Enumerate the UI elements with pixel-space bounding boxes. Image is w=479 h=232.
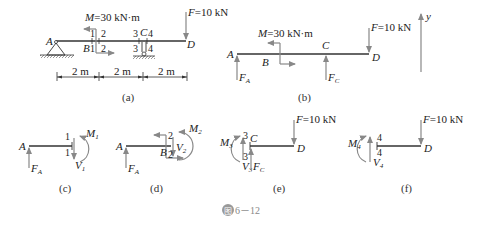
section-2-top: 2 bbox=[101, 28, 106, 39]
panel-a-caption: (a) bbox=[122, 91, 135, 104]
point-d-label: D bbox=[186, 38, 195, 50]
m4-label: M4 bbox=[347, 137, 361, 151]
panel-e: F=10 kN C D 3 3 M3 V3 FC (e) bbox=[219, 113, 336, 195]
figure-6-12: M=30 kN·m F=10 kN A B C D 1 1 2 2 3 3 4 … bbox=[0, 0, 479, 232]
point-d-label: D bbox=[423, 142, 432, 154]
section-4-bottom: 4 bbox=[148, 43, 153, 54]
point-a-label: A bbox=[226, 48, 234, 60]
force-label: F=10 kN bbox=[295, 113, 336, 125]
figure-prefix: 图 bbox=[224, 207, 232, 216]
fa-label: FA bbox=[127, 162, 140, 176]
point-b-label: B bbox=[83, 42, 90, 54]
point-a-label: A bbox=[18, 140, 26, 152]
force-label: F=10 kN bbox=[370, 21, 411, 33]
panel-f-caption: (f) bbox=[401, 182, 412, 195]
fc-label: FC bbox=[252, 160, 265, 174]
panel-a: M=30 kN·m F=10 kN A B C D 1 1 2 2 3 3 4 … bbox=[40, 6, 228, 104]
force-label: F=10 kN bbox=[187, 6, 228, 18]
dimension-label: 2 m bbox=[72, 65, 89, 77]
figure-number: 6－12 bbox=[235, 205, 260, 216]
point-c-label: C bbox=[322, 39, 330, 51]
dimension-label: 2 m bbox=[158, 65, 175, 77]
point-c-label: C bbox=[140, 26, 148, 38]
point-c-label: C bbox=[250, 132, 258, 144]
fa-label: FA bbox=[30, 162, 43, 176]
point-b-label: B bbox=[262, 56, 269, 68]
panel-b: y M=30 kN·m F=10 kN A B C D FA FC (b) bbox=[226, 10, 431, 104]
point-a-label: A bbox=[115, 140, 123, 152]
m3-label: M3 bbox=[219, 136, 233, 150]
section-2-bottom: 2 bbox=[101, 43, 106, 54]
panel-d-caption: (d) bbox=[150, 182, 163, 195]
moment-label: M=30 kN·m bbox=[84, 11, 140, 23]
dimension-label: 2 m bbox=[114, 65, 131, 77]
figure-caption: 图 6－12 bbox=[222, 204, 260, 216]
v4-label: V4 bbox=[373, 156, 384, 170]
point-d-label: D bbox=[371, 51, 380, 63]
panel-c: A 1 1 M1 V1 FA (c) bbox=[18, 127, 99, 195]
section-1-bottom: 1 bbox=[65, 147, 70, 158]
fa-label: FA bbox=[238, 71, 251, 85]
point-a-label: A bbox=[45, 35, 53, 47]
section-3-top: 3 bbox=[243, 130, 248, 141]
section-3-top: 3 bbox=[133, 28, 138, 39]
section-1-bottom: 1 bbox=[90, 43, 95, 54]
force-label: F=10 kN bbox=[422, 113, 463, 125]
section-2-top: 2 bbox=[168, 130, 173, 141]
section-4-top: 4 bbox=[148, 28, 153, 39]
section-1-top: 1 bbox=[90, 28, 95, 39]
v2-label: V2 bbox=[176, 141, 187, 155]
m1-label: M1 bbox=[85, 127, 99, 141]
y-axis-label: y bbox=[425, 10, 431, 22]
section-3-bottom: 3 bbox=[133, 43, 138, 54]
moment-label: M=30 kN·m bbox=[257, 27, 313, 39]
panel-c-caption: (c) bbox=[59, 182, 72, 195]
panel-b-caption: (b) bbox=[298, 91, 311, 104]
v1-label: V1 bbox=[75, 159, 85, 173]
panel-f: F=10 kN D 4 4 M4 V4 (f) bbox=[347, 113, 463, 195]
point-d-label: D bbox=[296, 142, 305, 154]
panel-e-caption: (e) bbox=[273, 182, 286, 195]
panel-d: A B 2 2 M2 V2 FA (d) bbox=[115, 122, 202, 195]
fc-label: FC bbox=[327, 71, 340, 85]
section-4-top: 4 bbox=[377, 132, 382, 143]
point-b-label: B bbox=[160, 146, 167, 158]
section-1-top: 1 bbox=[65, 131, 70, 142]
section-2-bottom: 2 bbox=[168, 149, 173, 160]
m2-label: M2 bbox=[188, 122, 202, 136]
